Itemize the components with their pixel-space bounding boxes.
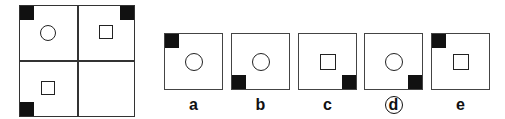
option-b[interactable]	[231, 33, 290, 90]
corner-block-icon	[342, 75, 356, 89]
option-d[interactable]	[364, 33, 423, 90]
option-label: a	[164, 96, 223, 114]
corner-block-icon	[20, 6, 34, 20]
option-e-label: e	[456, 96, 465, 113]
square-icon	[320, 54, 336, 70]
corner-block-icon	[165, 34, 179, 48]
option-b-label: b	[256, 96, 266, 113]
option-c-label: c	[323, 96, 332, 113]
square-icon	[99, 25, 113, 39]
circle-icon	[385, 53, 403, 71]
option-e[interactable]	[431, 33, 490, 90]
corner-block-icon	[408, 75, 422, 89]
option-d-label: d	[389, 96, 399, 113]
circle-icon	[40, 25, 56, 41]
circle-icon	[252, 53, 270, 71]
square-icon	[453, 54, 469, 70]
corner-block-icon	[20, 102, 34, 116]
option-label: d	[364, 96, 423, 114]
selected-answer-ring: d	[385, 96, 403, 114]
option-a-label: a	[189, 96, 198, 113]
option-label: b	[231, 96, 290, 114]
corner-block-icon	[232, 75, 246, 89]
missing-cell	[78, 61, 134, 116]
option-label: e	[431, 96, 490, 114]
option-a[interactable]	[164, 33, 223, 90]
corner-block-icon	[432, 34, 446, 48]
square-icon	[41, 81, 55, 95]
option-label: c	[298, 96, 357, 114]
circle-icon	[185, 53, 203, 71]
option-c[interactable]	[298, 33, 357, 90]
corner-block-icon	[120, 6, 134, 20]
